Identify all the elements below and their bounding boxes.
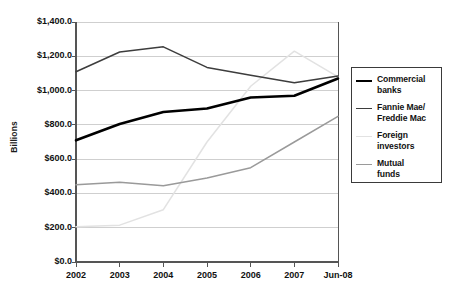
x-axis-tick-label: 2007 bbox=[272, 270, 316, 280]
series-lines bbox=[76, 47, 338, 227]
legend-label-line2: investors bbox=[377, 141, 414, 152]
legend-swatch-icon bbox=[356, 164, 372, 165]
legend-label-line1: Commercial bbox=[377, 74, 425, 85]
legend: CommercialbanksFannie Mae/Freddie MacFor… bbox=[351, 67, 442, 183]
x-axis-tick-label: 2005 bbox=[185, 270, 229, 280]
legend-swatch-icon bbox=[356, 80, 372, 82]
x-axis-tick-label: 2003 bbox=[98, 270, 142, 280]
line-chart: Billions $0.0$200.0$400.0$600.0$800.0$1,… bbox=[0, 0, 449, 294]
legend-swatch-icon bbox=[356, 136, 372, 137]
legend-label: Foreigninvestors bbox=[377, 130, 414, 152]
legend-swatch-icon bbox=[356, 108, 372, 109]
legend-label-line1: Mutual bbox=[377, 158, 404, 169]
legend-label: Commercialbanks bbox=[377, 74, 425, 96]
x-axis-tick-label: 2006 bbox=[229, 270, 273, 280]
legend-label-line1: Fannie Mae/ bbox=[377, 102, 426, 113]
legend-label-line2: funds bbox=[377, 169, 404, 180]
legend-item[interactable]: Fannie Mae/Freddie Mac bbox=[356, 102, 442, 124]
x-axis-tick-label: 2004 bbox=[141, 270, 185, 280]
x-axis-tick-label: 2002 bbox=[54, 270, 98, 280]
x-axis-tick-marks bbox=[76, 262, 338, 267]
legend-label: Mutualfunds bbox=[377, 158, 404, 180]
legend-label-line2: Freddie Mac bbox=[377, 113, 426, 124]
legend-item[interactable]: Commercialbanks bbox=[356, 74, 442, 96]
legend-item[interactable]: Mutualfunds bbox=[356, 158, 442, 180]
x-axis-tick-label: Jun-08 bbox=[316, 270, 360, 280]
legend-label-line2: banks bbox=[377, 85, 425, 96]
legend-item[interactable]: Foreigninvestors bbox=[356, 130, 442, 152]
series-line bbox=[76, 47, 338, 83]
legend-label-line1: Foreign bbox=[377, 130, 414, 141]
legend-label: Fannie Mae/Freddie Mac bbox=[377, 102, 426, 124]
series-line bbox=[76, 79, 338, 141]
